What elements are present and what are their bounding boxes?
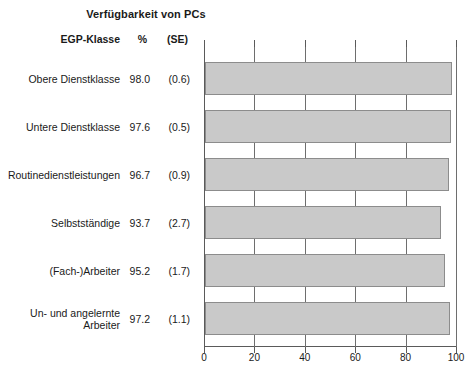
- row-percent-value: 96.7: [130, 169, 150, 181]
- row-se-value: (0.5): [168, 121, 190, 133]
- tick-top-40: [305, 40, 306, 47]
- x-tick-label-80: 80: [400, 352, 411, 363]
- tick-top-0: [204, 40, 205, 47]
- x-tick-label-20: 20: [249, 352, 260, 363]
- x-tick-label-100: 100: [448, 352, 465, 363]
- row-percent-value: 93.7: [130, 217, 150, 229]
- row-category-label: Selbstständige: [51, 217, 120, 230]
- bar: [205, 206, 441, 239]
- row-percent-value: 97.2: [130, 313, 150, 325]
- tick-top-100: [456, 40, 457, 47]
- bar: [205, 254, 445, 287]
- row-se-value: (0.9): [168, 169, 190, 181]
- plot-area: 020406080100: [204, 47, 456, 347]
- x-tick-label-0: 0: [201, 352, 207, 363]
- x-axis-line: [204, 346, 457, 347]
- tick-top-20: [254, 40, 255, 47]
- table-row: Obere Dienstklasse 98.0 (0.6): [0, 62, 196, 96]
- gridline-100: [456, 47, 457, 347]
- x-tick-label-60: 60: [350, 352, 361, 363]
- bar: [205, 302, 450, 335]
- chart-container: Verfügbarkeit von PCs EGP-Klasse % (SE) …: [0, 0, 473, 385]
- row-percent-value: 95.2: [130, 265, 150, 277]
- table-row: Un- und angelernte Arbeiter 97.2 (1.1): [0, 302, 196, 336]
- x-tick-label-40: 40: [299, 352, 310, 363]
- row-category-label: Obere Dienstklasse: [28, 73, 120, 86]
- row-category-label: Routinedienstleistungen: [8, 169, 120, 182]
- table-row: (Fach-)Arbeiter 95.2 (1.7): [0, 254, 196, 288]
- row-se-value: (1.7): [168, 265, 190, 277]
- row-se-value: (0.6): [168, 73, 190, 85]
- row-category-label: Untere Dienstklasse: [26, 121, 120, 134]
- table-row: Routinedienstleistungen 96.7 (0.9): [0, 158, 196, 192]
- row-se-value: (1.1): [168, 313, 190, 325]
- row-category-label: (Fach-)Arbeiter: [49, 265, 120, 278]
- tick-top-80: [406, 40, 407, 47]
- row-label-column: Obere Dienstklasse 98.0 (0.6) Untere Die…: [0, 0, 196, 385]
- bar: [205, 110, 451, 143]
- row-percent-value: 97.6: [130, 121, 150, 133]
- table-row: Untere Dienstklasse 97.6 (0.5): [0, 110, 196, 144]
- row-percent-value: 98.0: [130, 73, 150, 85]
- bar: [205, 62, 452, 95]
- row-category-label: Un- und angelernte Arbeiter: [30, 307, 120, 332]
- bar: [205, 158, 449, 191]
- tick-top-60: [355, 40, 356, 47]
- row-se-value: (2.7): [168, 217, 190, 229]
- table-row: Selbstständige 93.7 (2.7): [0, 206, 196, 240]
